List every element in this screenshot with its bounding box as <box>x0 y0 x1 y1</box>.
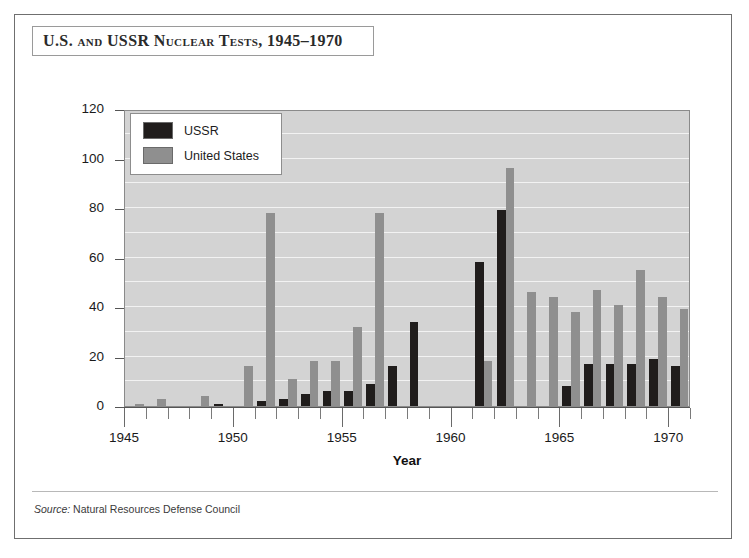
x-axis-tick <box>168 408 169 419</box>
legend-label-united-states: United States <box>184 149 259 163</box>
x-axis-tick <box>559 408 560 427</box>
source-label: Source: <box>34 503 70 515</box>
bar-ussr <box>584 364 593 406</box>
bar-group <box>647 111 669 406</box>
bar-united-states <box>680 309 689 406</box>
bar-group <box>582 111 604 406</box>
x-axis-tick <box>472 408 473 419</box>
bar-united-states <box>484 361 493 406</box>
x-axis-tick <box>124 408 125 427</box>
bar-ussr <box>606 364 615 406</box>
x-axis-tick-label: 1965 <box>529 430 589 445</box>
x-axis-tick <box>385 408 386 419</box>
bar-group <box>321 111 343 406</box>
chart-canvas: Number of Tests 020406080100120 USSR Uni… <box>0 0 749 558</box>
x-axis-tick-label: 1945 <box>94 430 154 445</box>
bar-ussr <box>323 391 332 406</box>
bar-group <box>517 111 539 406</box>
bar-group <box>299 111 321 406</box>
bar-ussr <box>627 364 636 406</box>
x-axis-title: Year <box>124 453 690 468</box>
x-axis-tick <box>233 408 234 427</box>
bar-group <box>626 111 648 406</box>
legend-swatch-ussr <box>143 122 173 139</box>
bar-group <box>473 111 495 406</box>
x-axis-tick-label: 1970 <box>638 430 698 445</box>
bar-group <box>430 111 452 406</box>
y-axis-tick <box>115 160 124 161</box>
chart-legend: USSR United States <box>130 113 282 175</box>
bar-united-states <box>266 213 275 406</box>
x-axis-tick <box>646 408 647 419</box>
bar-group <box>669 111 690 406</box>
bar-ussr <box>214 404 223 406</box>
x-axis-tick <box>342 408 343 427</box>
bar-ussr <box>301 394 310 406</box>
x-axis-tick <box>255 408 256 419</box>
bar-group <box>495 111 517 406</box>
y-axis-tick-label: 80 <box>64 200 104 215</box>
bar-group <box>364 111 386 406</box>
y-axis-tick <box>115 308 124 309</box>
y-axis-tick <box>115 110 124 111</box>
figure-page: U.S. and USSR Nuclear Tests, 1945–1970 N… <box>0 0 749 558</box>
legend-item-united-states: United States <box>143 147 281 164</box>
y-axis-tick-label: 100 <box>64 151 104 166</box>
y-axis-tick-label: 120 <box>64 101 104 116</box>
legend-item-ussr: USSR <box>143 122 281 139</box>
x-axis-tick <box>298 408 299 419</box>
source-text: Natural Resources Defense Council <box>70 503 240 515</box>
bar-group <box>386 111 408 406</box>
x-axis-tick <box>429 408 430 419</box>
y-axis-tick <box>115 358 124 359</box>
bar-united-states <box>506 168 515 406</box>
x-axis-tick-label: 1955 <box>312 430 372 445</box>
x-axis-tick <box>538 408 539 419</box>
x-axis-tick <box>320 408 321 419</box>
x-axis-tick <box>407 408 408 419</box>
bar-united-states <box>201 396 210 406</box>
source-caption: Source: Natural Resources Defense Counci… <box>34 503 240 515</box>
bar-united-states <box>527 292 536 406</box>
x-axis-tick <box>603 408 604 419</box>
y-axis-tick-label: 20 <box>64 349 104 364</box>
legend-swatch-united-states <box>143 147 173 164</box>
bar-group <box>539 111 561 406</box>
bar-united-states <box>135 404 144 406</box>
bar-united-states <box>593 290 602 406</box>
bar-united-states <box>658 297 667 406</box>
bar-group <box>408 111 430 406</box>
bar-ussr <box>475 262 484 406</box>
bar-ussr <box>649 359 658 406</box>
x-axis-tick <box>668 408 669 427</box>
bar-united-states <box>636 270 645 406</box>
x-axis-tick <box>451 408 452 427</box>
y-axis-tick <box>115 407 124 408</box>
bar-ussr <box>562 386 571 406</box>
x-axis-tick <box>581 408 582 419</box>
bar-united-states <box>310 361 319 406</box>
x-axis-tick <box>211 408 212 419</box>
bar-ussr <box>366 384 375 406</box>
bar-ussr <box>279 399 288 406</box>
bar-united-states <box>549 297 558 406</box>
y-axis-tick-label: 0 <box>64 398 104 413</box>
x-axis-tick <box>494 408 495 419</box>
x-axis-tick-label: 1960 <box>421 430 481 445</box>
bar-united-states <box>375 213 384 406</box>
legend-label-ussr: USSR <box>184 124 219 138</box>
x-axis-tick <box>516 408 517 419</box>
bar-group <box>560 111 582 406</box>
bar-ussr <box>671 366 680 406</box>
bar-group <box>452 111 474 406</box>
x-axis-tick <box>146 408 147 419</box>
x-axis-tick <box>276 408 277 419</box>
x-axis-tick-label: 1950 <box>203 430 263 445</box>
bar-ussr <box>344 391 353 406</box>
bar-united-states <box>157 399 166 406</box>
bar-united-states <box>614 305 623 406</box>
bar-united-states <box>571 312 580 406</box>
y-axis-tick <box>115 259 124 260</box>
bar-ussr <box>257 401 266 406</box>
bar-ussr <box>410 322 419 406</box>
